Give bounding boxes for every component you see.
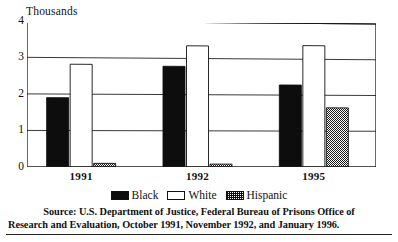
bar-chart-figure: Thousands 4 3 2 1 0 1991 1992 1995 Black xyxy=(0,0,398,242)
legend-entry-hispanic: Hispanic xyxy=(226,189,288,201)
bar-white-1992 xyxy=(187,46,209,167)
bar-white-1995 xyxy=(303,46,325,167)
plot-svg xyxy=(27,23,376,167)
source-note: Source: U.S. Department of Justice, Fede… xyxy=(8,206,390,231)
source-note-line-1: Source: U.S. Department of Justice, Fede… xyxy=(8,206,390,219)
bar-black-1992 xyxy=(163,66,185,167)
x-tick-label-1991: 1991 xyxy=(51,170,111,182)
x-tick-label-1992: 1992 xyxy=(168,170,228,182)
y-axis-title: Thousands xyxy=(26,5,78,17)
bottom-divider xyxy=(6,234,392,235)
y-tick-label-1: 1 xyxy=(2,124,24,135)
bar-hispanic-1995 xyxy=(326,108,348,167)
source-note-line-2: Research and Evaluation, October 1991, N… xyxy=(8,219,390,232)
legend-label-white: White xyxy=(188,189,216,201)
plot-area xyxy=(27,23,376,167)
y-tick-label-2: 2 xyxy=(2,88,24,99)
crosshatch-swatch-icon xyxy=(226,191,244,200)
solid-black-swatch-icon xyxy=(111,191,129,200)
bar-black-1991 xyxy=(47,98,69,167)
bars-group xyxy=(47,46,349,167)
chart-legend: Black White Hispanic xyxy=(0,189,398,201)
y-tick-label-3: 3 xyxy=(2,51,24,62)
legend-label-black: Black xyxy=(132,189,159,201)
legend-label-hispanic: Hispanic xyxy=(247,189,288,201)
bar-black-1995 xyxy=(279,85,301,167)
legend-entry-black: Black xyxy=(111,189,159,201)
outline-white-swatch-icon xyxy=(167,191,185,200)
x-tick-label-1995: 1995 xyxy=(284,170,344,182)
bar-white-1991 xyxy=(70,64,92,167)
legend-entry-white: White xyxy=(167,189,216,201)
y-tick-label-4: 4 xyxy=(2,15,24,26)
y-tick-label-0: 0 xyxy=(2,161,24,172)
frame-top xyxy=(27,23,376,24)
